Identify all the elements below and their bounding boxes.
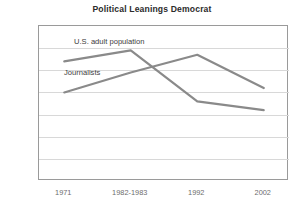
x-axis-tick-label: 1982-1983 (112, 188, 147, 197)
x-axis-tick-label: 2002 (255, 188, 271, 197)
series-label-u-s-adult-population: U.S. adult population (74, 37, 145, 46)
x-axis-tick-label: 1971 (55, 188, 71, 197)
chart-card: Political Leanings Democrat 504540353025… (0, 0, 304, 205)
chart-title: Political Leanings Democrat (0, 4, 304, 14)
x-axis-tick-label: 1992 (188, 188, 204, 197)
series-lines (39, 26, 289, 181)
series-line (64, 50, 264, 110)
series-label-journalists: Journalists (64, 68, 100, 77)
plot-area: U.S. adult populationJournalists (38, 25, 288, 180)
